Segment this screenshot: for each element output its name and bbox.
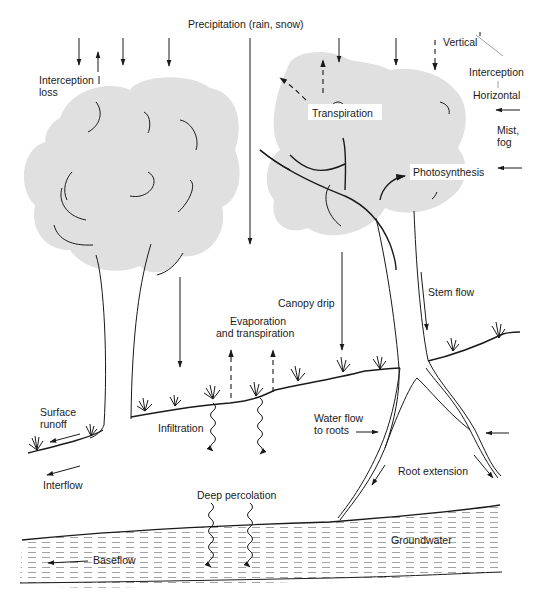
label-surface-runoff-1: Surface [40, 406, 76, 418]
label-water-flow-1: Water flow [314, 412, 364, 424]
label-water-flow-2: to roots [314, 424, 349, 436]
infiltration-wavy-2 [258, 398, 263, 454]
label-groundwater: Groundwater [391, 534, 452, 546]
label-vertical: Vertical [443, 36, 477, 48]
label-evaporation-1: Evaporation [230, 315, 286, 327]
label-surface-runoff-2: runoff [40, 418, 67, 430]
label-deep-percolation: Deep percolation [197, 489, 277, 501]
label-root-extension: Root extension [398, 465, 468, 477]
ground-right [428, 332, 520, 361]
label-precipitation: Precipitation (rain, snow) [188, 18, 304, 30]
interflow-arrow [47, 466, 80, 475]
label-baseflow: Baseflow [93, 554, 136, 566]
label-canopy-drip: Canopy drip [278, 297, 335, 309]
right-trunk-right-edge [414, 211, 501, 476]
left-trunk-left-edge [90, 255, 106, 438]
label-interception-loss-1: Interception [39, 74, 94, 86]
infiltration-wavy-1 [211, 403, 216, 451]
left-canopy [24, 77, 240, 272]
right-canopy [267, 52, 466, 235]
root-extension-left-arrow [372, 465, 385, 485]
left-tree [24, 77, 240, 438]
label-infiltration: Infiltration [158, 422, 204, 434]
root-fork [385, 378, 470, 448]
ground-middle [131, 368, 400, 417]
label-mist-1: Mist, [497, 124, 519, 136]
label-horizontal: Horizontal [473, 89, 520, 101]
right-trunk-left-edge-2 [338, 368, 400, 518]
label-evaporation-2: and transpiration [216, 327, 294, 339]
label-transpiration: Transpiration [312, 107, 373, 119]
label-interception: Interception [469, 66, 524, 78]
ground-surface [28, 332, 520, 453]
label-interflow: Interflow [43, 479, 83, 491]
label-interception-loss-2: loss [39, 86, 58, 98]
forest-hydrology-diagram: Precipitation (rain, snow) Interception … [0, 0, 546, 598]
label-mist-2: fog [497, 136, 512, 148]
label-stem-flow: Stem flow [428, 286, 475, 298]
label-photosynthesis: Photosynthesis [413, 166, 484, 178]
